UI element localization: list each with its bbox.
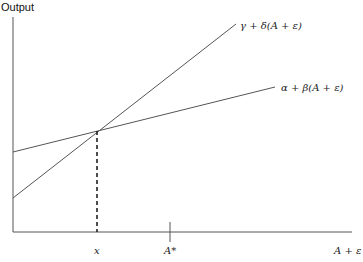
y-axis-label: Output <box>1 1 34 13</box>
x-tick-label: x <box>94 245 100 256</box>
a-star-label: A* <box>164 245 176 256</box>
flat-line-label: α + β(A + ε) <box>281 82 343 93</box>
line-steep <box>13 24 236 198</box>
x-axis-label: A + ε <box>334 245 361 256</box>
diagram-canvas <box>0 0 363 262</box>
line-flat <box>13 87 275 152</box>
steep-line-label: γ + δ(A + ε) <box>240 20 302 31</box>
